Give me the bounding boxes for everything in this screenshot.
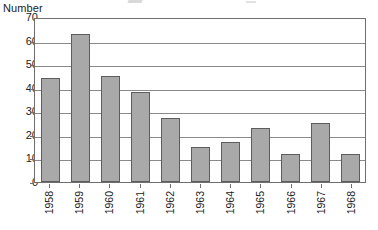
plot-area	[34, 18, 366, 183]
x-tick-mark	[291, 184, 292, 188]
x-tick-label: 1962	[164, 191, 175, 214]
x-tick-label: 1967	[315, 191, 326, 214]
x-slot: 1958	[34, 184, 64, 230]
x-axis-labels: 1958195919601961196219631964196519661967…	[34, 184, 366, 230]
bar-slot	[185, 19, 215, 182]
x-slot: 1964	[215, 184, 245, 230]
x-tick-mark	[351, 184, 352, 188]
bar	[131, 92, 150, 182]
bar	[281, 154, 300, 182]
x-tick-mark	[49, 184, 50, 188]
x-tick-mark	[109, 184, 110, 188]
x-tick-label: 1966	[285, 191, 296, 214]
bar-slot	[65, 19, 95, 182]
x-tick-mark	[79, 184, 80, 188]
x-slot: 1963	[185, 184, 215, 230]
x-tick-mark	[230, 184, 231, 188]
scan-artifact-secondary	[246, 1, 256, 3]
bar-series	[35, 19, 365, 182]
bar-slot	[155, 19, 185, 182]
x-slot: 1962	[155, 184, 185, 230]
x-slot: 1966	[276, 184, 306, 230]
bar	[71, 34, 90, 183]
x-tick-mark	[200, 184, 201, 188]
x-tick-label: 1963	[195, 191, 206, 214]
bar	[161, 118, 180, 182]
x-tick-label: 1964	[225, 191, 236, 214]
x-slot: 1959	[64, 184, 94, 230]
x-tick-label: 1959	[74, 191, 85, 214]
bar-slot	[95, 19, 125, 182]
scan-artifact	[127, 0, 142, 3]
x-tick-label: 1960	[104, 191, 115, 214]
bar	[191, 147, 210, 182]
bar-slot	[275, 19, 305, 182]
bar-chart-figure: Number 706050403020100 19581959196019611…	[0, 0, 378, 230]
x-slot: 1968	[336, 184, 366, 230]
x-slot: 1960	[94, 184, 124, 230]
x-tick-label: 1965	[255, 191, 266, 214]
bar	[311, 123, 330, 182]
bar-slot	[305, 19, 335, 182]
x-slot: 1967	[306, 184, 336, 230]
x-tick-label: 1968	[345, 191, 356, 214]
x-tick-mark	[170, 184, 171, 188]
bar-slot	[335, 19, 365, 182]
bar-slot	[125, 19, 155, 182]
x-tick-label: 1961	[134, 191, 145, 214]
x-tick-mark	[260, 184, 261, 188]
x-tick-mark	[321, 184, 322, 188]
bar	[251, 128, 270, 182]
bar	[101, 76, 120, 182]
bar-slot	[35, 19, 65, 182]
bar-slot	[215, 19, 245, 182]
bar	[341, 154, 360, 182]
bar	[221, 142, 240, 182]
x-slot: 1965	[245, 184, 275, 230]
bar-slot	[245, 19, 275, 182]
x-tick-mark	[140, 184, 141, 188]
x-tick-label: 1958	[44, 191, 55, 214]
x-slot: 1961	[125, 184, 155, 230]
bar	[41, 78, 60, 182]
